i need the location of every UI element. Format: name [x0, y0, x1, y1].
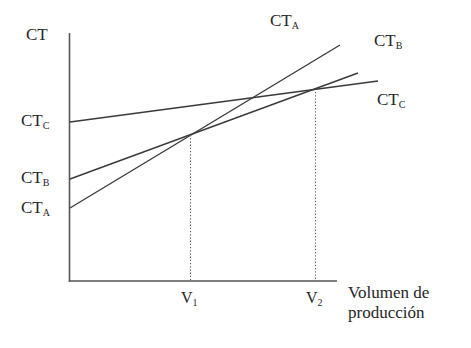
label-ct-c-series: CTC: [377, 91, 405, 109]
x-axis-title-line-1: Volumen de: [348, 283, 429, 302]
x-tick-label-v2: V2: [306, 290, 323, 307]
label-ct-b-intercept: CTB: [21, 169, 49, 187]
series-line-ct-c: [70, 81, 378, 122]
label-ct-a-series: CTA: [270, 12, 299, 30]
x-axis-title: Volumen de producción: [348, 283, 466, 323]
label-ct-b-series: CTB: [374, 32, 402, 50]
x-tick-label-v1: V1: [181, 290, 198, 307]
label-ct-c-intercept: CTC: [21, 112, 49, 130]
label-ct-a-intercept: CTA: [21, 199, 50, 217]
cost-volume-chart-figure: CT CTC CTB CTA CTA CTB CTC V1 V2 Volumen…: [0, 0, 471, 348]
y-axis-label: CT: [26, 26, 48, 44]
series-line-ct-b: [70, 73, 358, 179]
x-axis-title-line-2: producción: [348, 303, 424, 322]
series-line-ct-a: [70, 45, 340, 208]
